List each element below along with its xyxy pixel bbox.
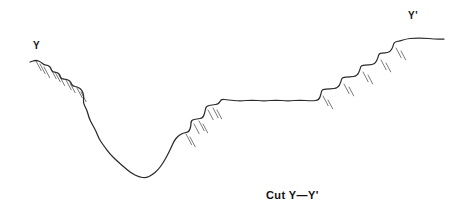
- topographic-profile-drawing: [0, 0, 452, 221]
- left-endpoint-label: Y: [33, 41, 40, 51]
- figure-caption: Cut Y—Y': [266, 190, 319, 201]
- figure-background: [0, 0, 452, 221]
- cross-section-figure: Y Y' Cut Y—Y': [0, 0, 452, 221]
- right-endpoint-label: Y': [408, 11, 418, 21]
